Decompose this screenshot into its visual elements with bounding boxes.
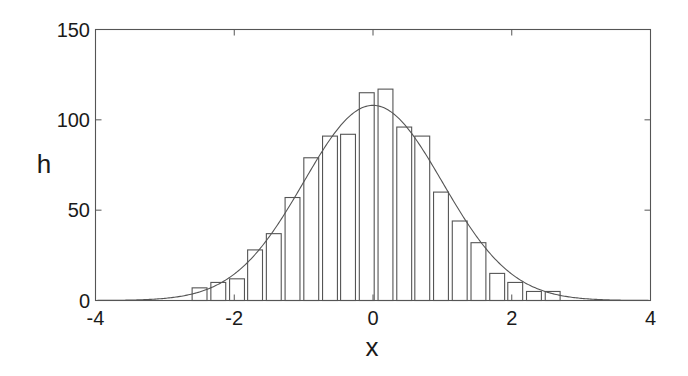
histogram-bar — [248, 250, 263, 301]
x-tick-label: -2 — [225, 307, 243, 329]
histogram-bar — [471, 243, 486, 301]
histogram-bar — [266, 234, 281, 301]
histogram-bar — [434, 192, 449, 300]
histogram-bar — [415, 136, 430, 300]
histogram-bar — [490, 273, 505, 300]
histogram-bar — [230, 279, 245, 301]
histogram-bar — [397, 127, 412, 300]
histogram-bar — [508, 282, 523, 300]
histogram-bar — [341, 134, 356, 300]
y-tick-label: 50 — [68, 199, 90, 221]
x-axis-label: x — [366, 332, 379, 362]
histogram-bar — [527, 291, 542, 300]
x-tick-label: 2 — [506, 307, 517, 329]
y-axis-label: h — [37, 149, 51, 179]
histogram-bar — [211, 282, 226, 300]
x-tick-label: 0 — [367, 307, 378, 329]
y-tick-label: 100 — [57, 109, 90, 131]
y-tick-label: 150 — [57, 19, 90, 41]
histogram-chart: -4-2024 050100150 x h — [0, 0, 688, 376]
histogram-bar — [323, 136, 338, 300]
histogram-bar — [359, 93, 374, 301]
histogram-bar — [452, 221, 467, 300]
y-tick-label: 0 — [79, 290, 90, 312]
histogram-bar — [545, 291, 560, 300]
histogram-bar — [378, 89, 393, 300]
x-tick-label: 4 — [645, 307, 656, 329]
histogram-bar — [304, 158, 319, 301]
histogram-bar — [285, 198, 300, 301]
